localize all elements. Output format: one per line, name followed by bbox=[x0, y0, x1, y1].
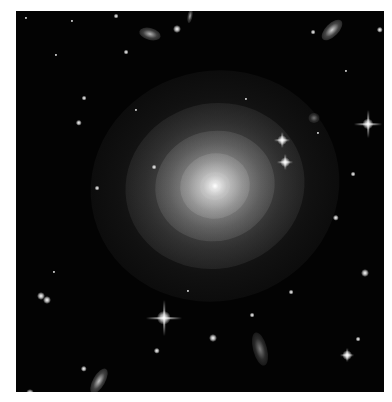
star bbox=[70, 19, 73, 22]
star bbox=[250, 313, 255, 318]
background-galaxy bbox=[87, 366, 111, 392]
star bbox=[52, 270, 55, 273]
star bbox=[124, 50, 129, 55]
star bbox=[54, 53, 57, 56]
star bbox=[154, 348, 160, 354]
star bbox=[351, 172, 356, 177]
background-galaxy bbox=[309, 113, 320, 123]
star bbox=[361, 269, 369, 277]
star bbox=[82, 96, 87, 101]
star bbox=[43, 296, 51, 304]
star bbox=[311, 30, 316, 35]
bright-star bbox=[277, 135, 287, 145]
star bbox=[356, 337, 361, 342]
galaxy-core bbox=[208, 179, 222, 193]
star bbox=[95, 186, 100, 191]
star bbox=[173, 25, 181, 33]
star bbox=[26, 389, 34, 392]
star bbox=[24, 16, 27, 19]
galaxy-image bbox=[16, 11, 384, 392]
bright-star bbox=[280, 157, 290, 167]
star bbox=[152, 165, 157, 170]
star bbox=[377, 27, 383, 33]
bright-star bbox=[362, 118, 373, 129]
bright-star bbox=[157, 311, 171, 325]
star bbox=[333, 215, 339, 221]
star bbox=[114, 14, 119, 19]
star bbox=[344, 69, 347, 72]
star bbox=[209, 334, 217, 342]
background-galaxy bbox=[186, 11, 193, 23]
background-galaxy bbox=[318, 16, 346, 44]
bright-star bbox=[342, 350, 352, 360]
star bbox=[76, 120, 82, 126]
background-galaxy bbox=[138, 25, 162, 42]
background-galaxy bbox=[249, 331, 271, 367]
star bbox=[81, 366, 87, 372]
star bbox=[289, 290, 294, 295]
